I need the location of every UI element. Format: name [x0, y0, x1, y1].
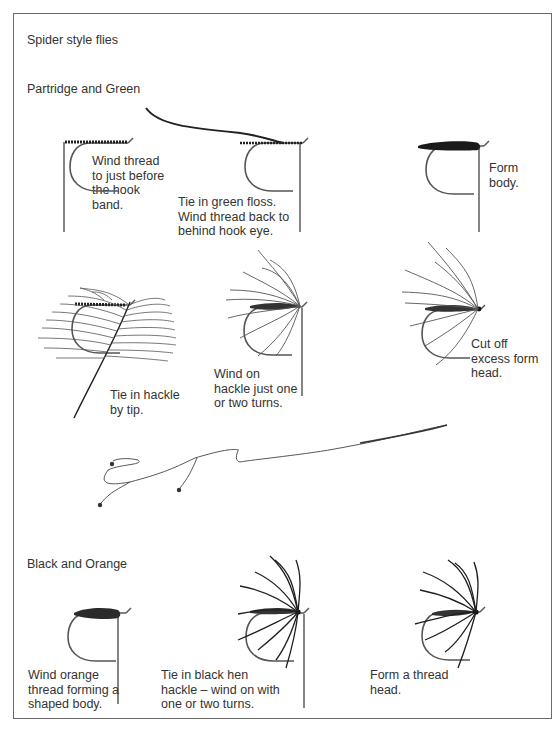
- step-caption-7: Wind orange thread forming a shaped body…: [28, 668, 119, 712]
- step-caption-3: Form body.: [489, 161, 519, 190]
- step-caption-1: Wind thread to just before the hook band…: [92, 154, 164, 212]
- section-heading-black-orange: Black and Orange: [27, 557, 127, 571]
- step-caption-4: Tie in hackle by tip.: [110, 388, 180, 417]
- page-title: Spider style flies: [27, 33, 118, 47]
- step-caption-2: Tie in green floss. Wind thread back to …: [178, 195, 289, 239]
- step-caption-8: Tie in black hen hackle – wind on with o…: [161, 668, 280, 712]
- step-caption-9: Form a thread head.: [370, 668, 449, 697]
- step-caption-5: Wind on hackle just one or two turns.: [214, 367, 297, 411]
- step-caption-6: Cut off excess form head.: [471, 337, 538, 381]
- section-heading-partridge-green: Partridge and Green: [27, 82, 140, 96]
